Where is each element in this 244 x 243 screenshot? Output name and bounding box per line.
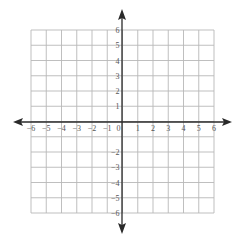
x-tick-label: −4: [57, 124, 66, 133]
x-tick-label: 3: [166, 124, 170, 133]
y-tick-label: −4: [111, 179, 120, 188]
x-tick-label: 2: [151, 124, 155, 133]
x-tick-label: 4: [182, 124, 186, 133]
y-tick-label: 5: [116, 41, 120, 50]
x-tick-label: −6: [27, 124, 36, 133]
y-tick-label: −5: [111, 194, 120, 203]
y-tick-label: −3: [111, 163, 120, 172]
y-tick-label: 3: [116, 72, 120, 81]
coordinate-plane: −6−5−4−3−2−10123456 123456−2−3−4−5−6: [0, 0, 244, 243]
y-tick-label: 6: [116, 26, 120, 35]
y-tick-label: −6: [111, 209, 120, 218]
y-tick-label: 2: [116, 87, 120, 96]
x-tick-label: −2: [88, 124, 97, 133]
x-tick-label: −3: [72, 124, 81, 133]
y-tick-label: 1: [116, 102, 120, 111]
x-tick-label: 5: [197, 124, 201, 133]
y-tick-label: 4: [116, 57, 120, 66]
x-tick-label: 6: [212, 124, 216, 133]
x-tick-label: −5: [42, 124, 51, 133]
y-tick-label: −2: [111, 148, 120, 157]
x-tick-label: 0: [117, 124, 121, 133]
x-tick-label: 1: [136, 124, 140, 133]
x-tick-label: −1: [103, 124, 112, 133]
